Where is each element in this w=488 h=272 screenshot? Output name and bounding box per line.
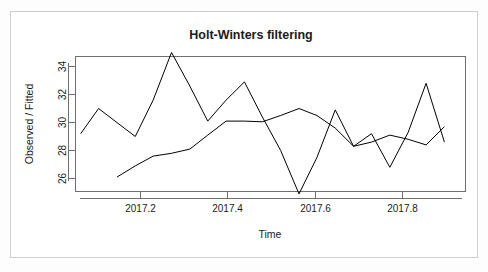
series-line-fitted: [117, 109, 445, 178]
series-line-observed: [81, 53, 445, 194]
y-tick-label-28: 28: [57, 145, 68, 157]
y-tick-label-26: 26: [57, 173, 68, 185]
x-tick-marks: [141, 192, 403, 199]
x-tick-label-2017-8: 2017.8: [387, 203, 418, 214]
holt-winters-plot: Holt-Winters filtering 34 32 30 28 26 Ob…: [0, 0, 488, 272]
x-axis-title: Time: [259, 228, 282, 240]
chart-title: Holt-Winters filtering: [189, 28, 313, 42]
y-tick-label-34: 34: [57, 61, 68, 73]
x-tick-label-2017-2: 2017.2: [125, 203, 156, 214]
y-tick-marks: [69, 67, 76, 179]
x-tick-labels: 2017.2 2017.4 2017.6 2017.8: [125, 203, 418, 214]
y-tick-labels: 34 32 30 28 26: [57, 61, 68, 185]
y-tick-label-30: 30: [57, 117, 68, 129]
y-tick-label-32: 32: [57, 89, 68, 101]
x-tick-label-2017-6: 2017.6: [300, 203, 331, 214]
plot-panel-box: [76, 57, 466, 192]
y-axis-title: Observed / Fitted: [23, 84, 35, 165]
figure-root: Holt-Winters filtering 34 32 30 28 26 Ob…: [0, 0, 488, 272]
series-group: [81, 53, 445, 194]
x-tick-label-2017-4: 2017.4: [212, 203, 243, 214]
